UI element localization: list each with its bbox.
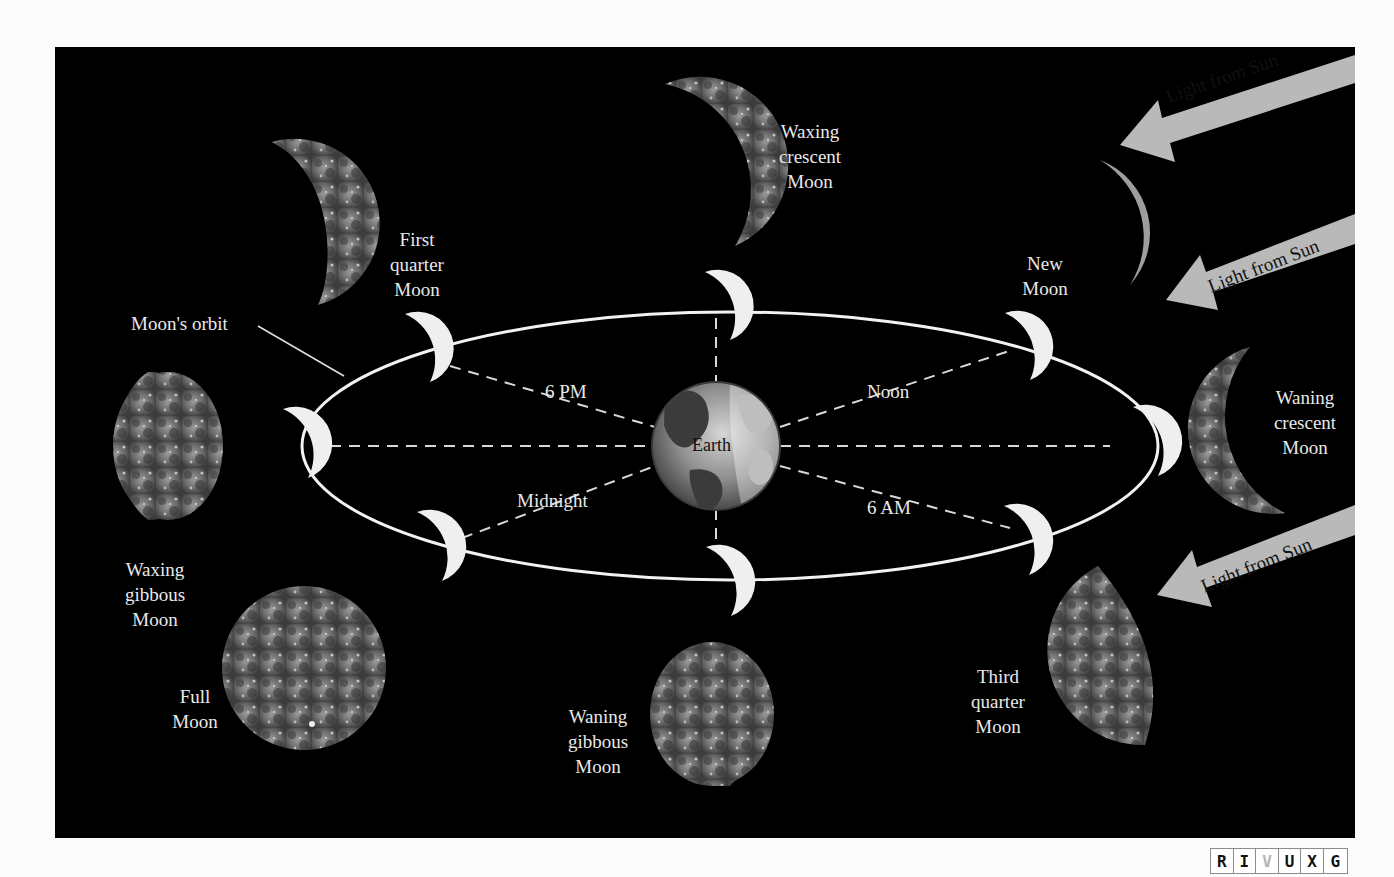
badge-letter-v: V [1256,849,1279,873]
photo-moon-third-quarter [1047,566,1153,745]
badge-letter-i: I [1234,849,1257,873]
label-waning-gibbous: Waning gibbous Moon [543,704,653,779]
label-waxing-crescent: Waxing crescent Moon [755,119,865,194]
label-waning-crescent: Waning crescent Moon [1250,385,1355,460]
label-6pm: 6 PM [545,381,587,403]
label-earth: Earth [692,435,731,456]
label-moons-orbit: Moon's orbit [131,313,228,335]
label-third-quarter: Third quarter Moon [943,664,1053,739]
badge-letter-x: X [1301,849,1324,873]
moon-phases-diagram: Light from Sun Light from Sun Light from… [55,47,1355,838]
label-waxing-gibbous: Waxing gibbous Moon [100,557,210,632]
photo-moon-new-sliver [1100,160,1150,285]
badge-letter-g: G [1324,849,1347,873]
photo-moon-waxing-gibbous [113,372,223,520]
badge-letter-r: R [1211,849,1234,873]
label-full-moon: Full Moon [140,684,250,734]
label-first-quarter: First quarter Moon [362,227,472,302]
badge-letter-u: U [1279,849,1302,873]
label-midnight: Midnight [517,490,588,512]
photo-moon-waning-gibbous [650,642,774,786]
orbit-pointer-line [258,326,344,376]
wavelength-badge: R I V U X G [1210,848,1348,874]
label-6am: 6 AM [867,497,911,519]
label-new-moon: New Moon [990,251,1100,301]
label-noon: Noon [867,381,909,403]
